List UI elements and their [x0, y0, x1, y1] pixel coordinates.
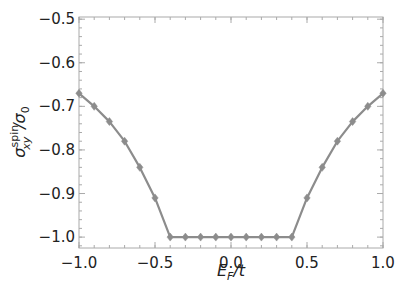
data-point-diamond-icon [243, 233, 249, 241]
x-axis-label-rest: /t [231, 261, 245, 280]
data-point-diamond-icon [213, 233, 219, 241]
spin-hall-conductivity-chart: −0.5−0.6−0.7−0.8−0.9−1.0 −1.0−0.50.00.51… [0, 0, 409, 293]
y-axis-label-rest-sub: 0 [19, 106, 32, 113]
data-point-diamond-icon [228, 233, 234, 241]
data-point-diamond-icon [258, 233, 264, 241]
y-tick-label: −0.5 [39, 10, 75, 28]
x-tick-label: 0.5 [295, 254, 319, 272]
data-point-diamond-icon [182, 233, 188, 241]
minor-ticks [79, 17, 383, 248]
y-tick-label: −0.7 [39, 97, 75, 115]
y-tick-label: −0.8 [39, 141, 75, 159]
data-markers [76, 89, 386, 241]
y-axis-label: σspinxy/σ0 [8, 106, 33, 157]
major-ticks [79, 17, 383, 248]
x-tick-label: −0.5 [137, 254, 173, 272]
y-tick-label: −1.0 [39, 228, 75, 246]
plot-frame [79, 17, 383, 248]
x-tick-label: −1.0 [61, 254, 97, 272]
y-tick-label: −0.9 [39, 185, 75, 203]
y-tick-label: −0.6 [39, 54, 75, 72]
data-point-diamond-icon [197, 233, 203, 241]
y-tick-labels: −0.5−0.6−0.7−0.8−0.9−1.0 [39, 10, 75, 246]
x-tick-label: 1.0 [371, 254, 395, 272]
y-axis-label-rest: /σ [10, 112, 29, 130]
data-point-diamond-icon [273, 233, 279, 241]
data-line [79, 93, 383, 237]
y-axis-label-sub: xy [20, 136, 33, 151]
